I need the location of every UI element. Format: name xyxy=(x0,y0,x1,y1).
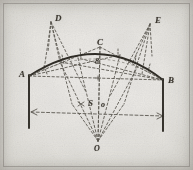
springing-line xyxy=(31,112,163,116)
figure-plate: D E C 8 A B S o O xyxy=(0,0,193,170)
label-O: O xyxy=(94,145,100,153)
fan-from-E xyxy=(110,24,152,104)
label-B: B xyxy=(168,76,174,85)
pier-lines-solid xyxy=(29,75,163,131)
fan-from-D xyxy=(44,22,86,104)
springing-line-arrowheads xyxy=(31,109,163,119)
label-E: E xyxy=(155,16,161,25)
dashed-construction-lines xyxy=(29,22,163,141)
label-D: D xyxy=(55,14,62,23)
label-S: S xyxy=(88,99,93,108)
label-A: A xyxy=(19,70,25,79)
label-8: 8 xyxy=(95,58,99,66)
label-C: C xyxy=(97,38,103,47)
label-o: o xyxy=(101,101,105,109)
